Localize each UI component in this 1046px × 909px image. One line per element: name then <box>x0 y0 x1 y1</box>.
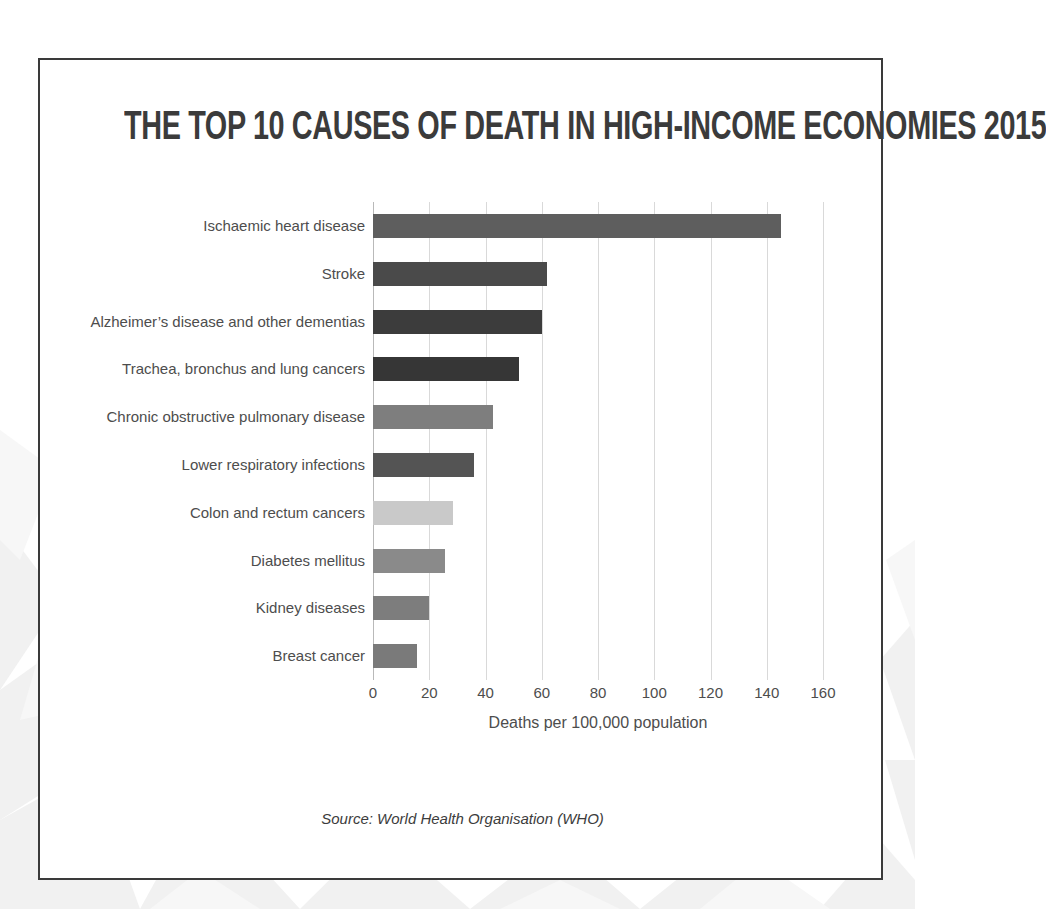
x-tick-label: 140 <box>754 684 779 701</box>
x-tick-label: 80 <box>590 684 607 701</box>
bar-row <box>373 298 823 346</box>
bar <box>373 405 493 429</box>
bar <box>373 262 547 286</box>
bar <box>373 357 519 381</box>
category-label: Colon and rectum cancers <box>40 489 365 537</box>
bar <box>373 310 542 334</box>
bar-row <box>373 632 823 680</box>
value-axis-ticks: 020406080100120140160 <box>373 684 823 708</box>
poster-frame: THE TOP 10 CAUSES OF DEATH IN HIGH-INCOM… <box>38 58 883 880</box>
category-label: Ischaemic heart disease <box>40 202 365 250</box>
category-label: Chronic obstructive pulmonary disease <box>40 393 365 441</box>
x-axis-title: Deaths per 100,000 population <box>373 714 823 732</box>
bar-chart: Ischaemic heart diseaseStrokeAlzheimer’s… <box>40 60 885 882</box>
bar <box>373 501 453 525</box>
bar-row <box>373 537 823 585</box>
bar-row <box>373 393 823 441</box>
bar <box>373 214 781 238</box>
x-tick-label: 40 <box>477 684 494 701</box>
category-label: Breast cancer <box>40 632 365 680</box>
category-axis-labels: Ischaemic heart diseaseStrokeAlzheimer’s… <box>40 202 365 680</box>
bar-row <box>373 250 823 298</box>
bar <box>373 644 417 668</box>
bar <box>373 596 429 620</box>
x-tick-label: 0 <box>369 684 377 701</box>
x-tick-label: 100 <box>642 684 667 701</box>
bar-series <box>373 202 823 680</box>
category-label: Diabetes mellitus <box>40 537 365 585</box>
category-label: Stroke <box>40 250 365 298</box>
category-label: Lower respiratory infections <box>40 441 365 489</box>
bar <box>373 549 445 573</box>
bar-row <box>373 441 823 489</box>
x-tick-label: 120 <box>698 684 723 701</box>
gridline-160 <box>823 202 824 680</box>
x-tick-label: 160 <box>810 684 835 701</box>
x-tick-label: 60 <box>533 684 550 701</box>
bar <box>373 453 474 477</box>
category-label: Kidney diseases <box>40 584 365 632</box>
bar-row <box>373 489 823 537</box>
bar-row <box>373 345 823 393</box>
category-label: Trachea, bronchus and lung cancers <box>40 345 365 393</box>
x-tick-label: 20 <box>421 684 438 701</box>
source-note: Source: World Health Organisation (WHO) <box>40 810 885 827</box>
bar-row <box>373 202 823 250</box>
category-label: Alzheimer’s disease and other dementias <box>40 298 365 346</box>
bar-row <box>373 584 823 632</box>
